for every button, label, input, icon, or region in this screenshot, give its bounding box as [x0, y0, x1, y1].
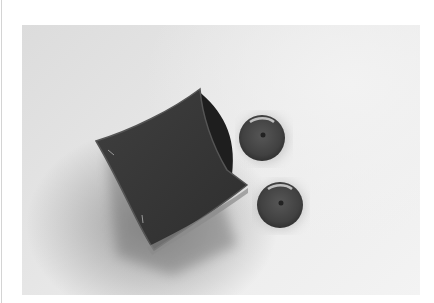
photo: Fabric pouch with two buttons: [22, 25, 420, 295]
left-border-line: [1, 0, 2, 303]
button-bottom: [257, 182, 305, 230]
button-top: [239, 115, 288, 163]
photo-scene: [22, 25, 420, 295]
